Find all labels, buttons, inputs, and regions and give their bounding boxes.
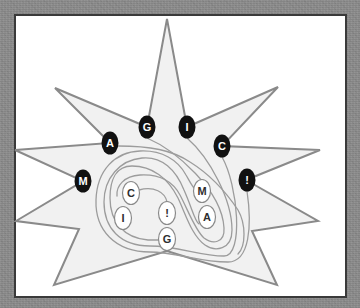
badge-letter: G [143,121,152,133]
outer-badge-m: M [75,170,92,193]
inner-badge-m: M [194,180,211,203]
outer-badge-c: C [214,135,231,158]
inner-badge-g: G [159,228,176,251]
badge-letter: I [185,121,188,133]
badge-letter: C [218,140,226,152]
inner-badge-a: A [199,206,216,229]
badge-letter: ! [245,174,249,186]
outer-badge-g: G [139,116,156,139]
inner-badge-c: C [123,182,140,205]
outer-badge-a: A [102,132,119,155]
badge-letter: M [197,185,206,197]
badge-letter: C [127,187,135,199]
outer-badge-i: I [179,116,196,139]
badge-letter: A [203,211,211,223]
badge-letter: ! [165,207,169,219]
textured-background: M A G I C ! C I [0,0,360,308]
inner-badge-exclamation: ! [159,202,176,225]
inner-badge-i: I [115,207,132,230]
badge-letter: M [78,175,87,187]
outer-badge-exclamation: ! [239,169,256,192]
badge-letter: A [106,137,114,149]
badge-letter: G [163,233,172,245]
magic-star-illustration: M A G I C ! C I [0,0,360,308]
badge-letter: I [121,212,124,224]
